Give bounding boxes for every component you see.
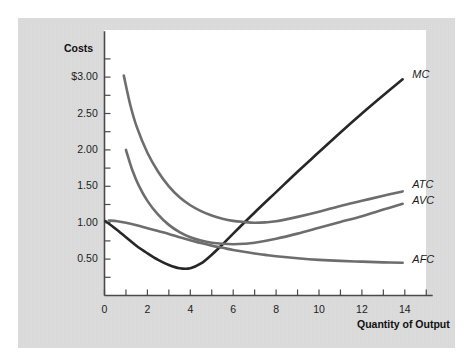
cost-curves-figure: Costs Quantity of Output $3.002.502.001.… (0, 0, 472, 362)
curve-avc (126, 150, 403, 244)
y-tick-label: 0.50 (40, 252, 98, 264)
x-tick-label: 8 (256, 303, 296, 315)
x-tick-label: 12 (342, 303, 382, 315)
curves-group (106, 76, 403, 269)
y-tick-label: 1.50 (40, 179, 98, 191)
curve-mc (106, 79, 403, 268)
y-tick-label: 2.00 (40, 143, 98, 155)
atc-label: ATC (412, 178, 433, 190)
x-tick-label: 10 (299, 303, 339, 315)
x-tick-label: 14 (385, 303, 425, 315)
curve-atc (124, 76, 403, 223)
avc-label: AVC (412, 194, 434, 206)
x-tick-label: 6 (213, 303, 253, 315)
y-axis-title: Costs (64, 42, 93, 54)
x-axis-title: Quantity of Output (357, 318, 450, 330)
y-tick-label: 1.00 (40, 216, 98, 228)
x-tick-label: 2 (127, 303, 167, 315)
afc-label: AFC (412, 253, 434, 265)
x-tick-label: 4 (170, 303, 210, 315)
x-tick-label: 0 (85, 303, 125, 315)
y-tick-label: $3.00 (40, 70, 98, 82)
y-tick-label: 2.50 (40, 107, 98, 119)
mc-label: MC (412, 68, 429, 80)
